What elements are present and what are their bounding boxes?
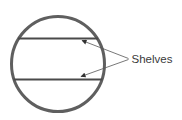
cylinder-circle: [12, 17, 105, 112]
shelves-diagram: Shelves: [0, 0, 182, 120]
shelves-label: Shelves: [132, 53, 173, 65]
diagram-svg: Shelves: [0, 0, 182, 120]
